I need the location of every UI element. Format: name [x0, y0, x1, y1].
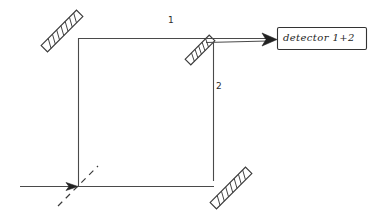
path-label-2: 2	[216, 81, 222, 91]
output-beam-to-detector	[206, 33, 277, 46]
detector-label: detector 1+2	[283, 31, 367, 45]
input-beam	[20, 183, 78, 191]
mirror-top-left	[41, 10, 83, 52]
mirror-top-left-hatching	[45, 13, 80, 48]
beam-splitter-output	[185, 35, 215, 65]
mirror-bottom-right	[210, 167, 252, 209]
path-label-1: 1	[168, 15, 174, 25]
mirror-bottom-right-hatching	[214, 170, 249, 205]
output-beam-arrowhead	[262, 33, 277, 46]
output-beam-line-lower	[206, 41, 268, 43]
interferometer-figure: detector 1+2 1 2	[0, 0, 376, 221]
